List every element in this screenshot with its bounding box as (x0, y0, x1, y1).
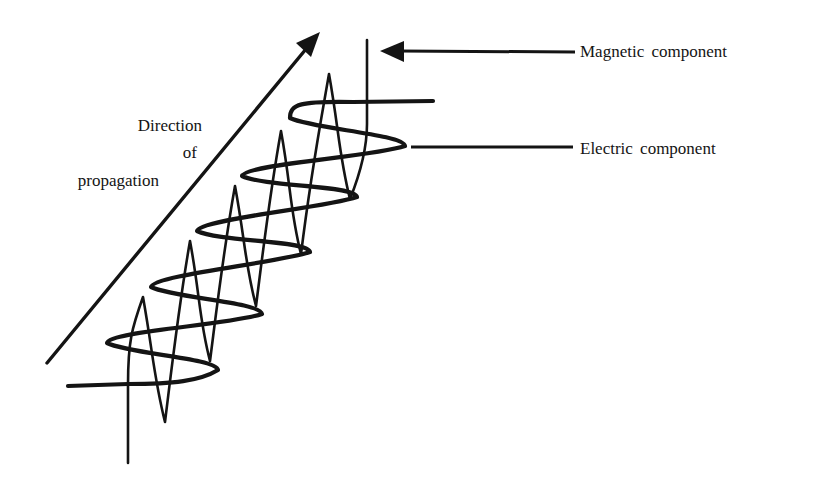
magnetic-leader-arrow (380, 41, 575, 62)
magnetic-arrowhead-icon (380, 41, 404, 62)
propagation-label-line-3: propagation (78, 172, 159, 189)
propagation-arrowhead-icon (296, 32, 320, 57)
em-wave-diagram (0, 0, 829, 493)
propagation-arrow (47, 32, 320, 363)
propagation-label-line-1: Direction (138, 117, 202, 134)
propagation-arrow-shaft (47, 49, 306, 363)
electric-component-wave (68, 101, 433, 386)
magnetic-component-label: Magnetic component (580, 43, 727, 60)
electric-component-label: Electric component (580, 140, 716, 157)
magnetic-leader-line (400, 51, 575, 52)
propagation-label-line-2: of (183, 144, 197, 161)
